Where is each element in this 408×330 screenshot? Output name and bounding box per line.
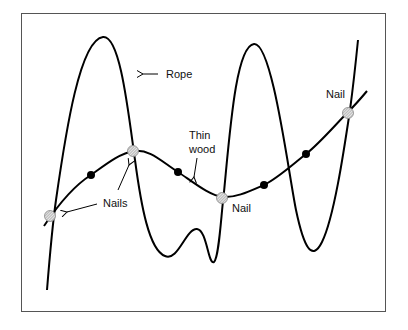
nail-marker	[217, 193, 228, 204]
nail-middle-label: Nail	[232, 202, 251, 214]
wood-dot	[302, 150, 310, 158]
nails-label: Nails	[103, 197, 128, 209]
thin-wood-label-line2: wood	[188, 143, 215, 155]
diagram-frame	[22, 14, 386, 312]
wood-dot	[87, 171, 95, 179]
nail-marker	[45, 211, 56, 222]
wood-dot	[174, 168, 182, 176]
wood-dot	[260, 181, 268, 189]
thin-wood-label-line1: Thin	[189, 129, 210, 141]
rope-label: Rope	[166, 68, 192, 80]
nail-right-label: Nail	[326, 88, 345, 100]
nail-marker	[343, 108, 354, 119]
nail-marker	[128, 146, 139, 157]
rope-and-wood-diagram: Rope Thin wood Nails Nail Nail	[0, 0, 408, 330]
